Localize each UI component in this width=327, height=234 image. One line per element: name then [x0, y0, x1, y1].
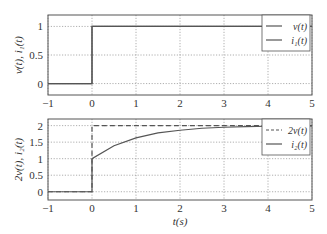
legend-label: v(t) [293, 21, 308, 33]
x-tick-label: −1 [42, 97, 54, 109]
y-tick-label: 0.5 [29, 169, 43, 181]
x-axis-label: t(s) [173, 215, 188, 228]
y-tick-label: 0 [38, 186, 44, 198]
x-tick-label: 0 [89, 97, 95, 109]
legend-label: i₁(t) [291, 35, 307, 47]
y-axis-label: v(t), i₁(t) [12, 36, 25, 74]
x-tick-label: −1 [42, 202, 54, 214]
y-tick-label: 1.5 [29, 136, 43, 148]
legend: v(t)i₁(t) [262, 15, 310, 51]
x-tick-label: 3 [221, 97, 227, 109]
bottom-plot: 00.511.52−10123452v(t), i₂(t)t(s)2v(t)i₂… [12, 119, 315, 228]
y-tick-label: 2 [38, 120, 44, 132]
legend-label: 2v(t) [288, 125, 308, 137]
y-axis-label: 2v(t), i₂(t) [12, 137, 25, 181]
x-tick-label: 5 [309, 97, 315, 109]
x-tick-label: 5 [309, 202, 315, 214]
top-plot: 00.51−1012345v(t), i₁(t)v(t)i₁(t) [12, 15, 315, 109]
legend: 2v(t)i₂(t) [262, 119, 310, 155]
x-tick-label: 3 [221, 202, 227, 214]
x-tick-label: 4 [265, 97, 271, 109]
y-tick-label: 1 [38, 20, 44, 32]
x-tick-label: 2 [177, 97, 183, 109]
x-tick-label: 1 [133, 97, 139, 109]
x-tick-label: 0 [89, 202, 95, 214]
x-tick-label: 4 [265, 202, 271, 214]
x-tick-label: 2 [177, 202, 183, 214]
y-tick-label: 0.5 [29, 49, 43, 61]
chart-figure: 00.51−1012345v(t), i₁(t)v(t)i₁(t) 00.511… [0, 0, 327, 234]
x-tick-label: 1 [133, 202, 139, 214]
y-tick-label: 1 [38, 153, 44, 165]
y-tick-label: 0 [38, 78, 44, 90]
legend-label: i₂(t) [291, 139, 307, 151]
